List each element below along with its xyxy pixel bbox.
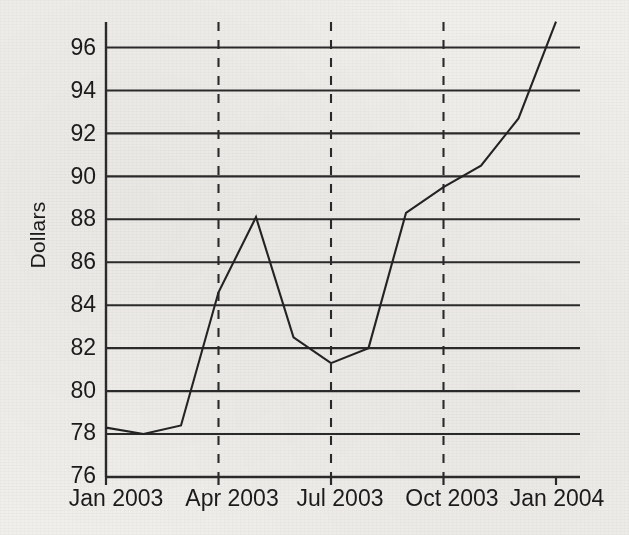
horizontal-gridlines [106, 48, 580, 478]
x-axis-tick-marks [106, 477, 556, 485]
chart-plot-area [0, 0, 629, 535]
line-chart-figure: Dollars 96 94 92 90 88 86 84 82 80 78 76… [0, 0, 629, 535]
